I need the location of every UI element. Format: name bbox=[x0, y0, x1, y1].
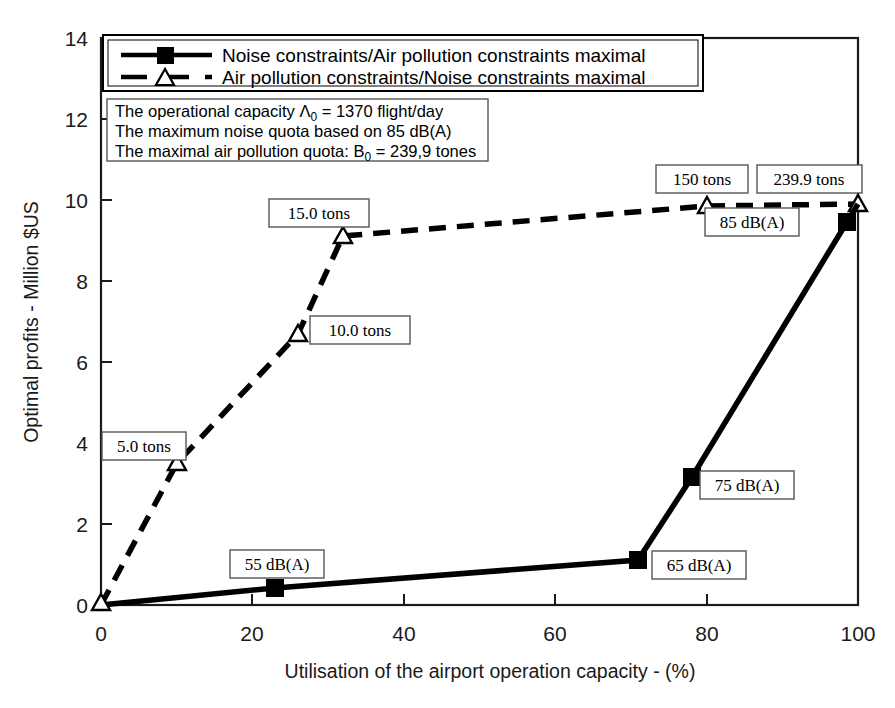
annotation-label: 5.0 tons bbox=[117, 437, 171, 456]
annotation-150-tons: 150 tons bbox=[656, 165, 748, 193]
y-tick-label: 10 bbox=[65, 189, 88, 212]
annotation-239-9-tons: 239.9 tons bbox=[757, 165, 862, 193]
y-axis-title: Optimal profits - Million $US bbox=[20, 201, 42, 443]
x-tick-label: 60 bbox=[543, 622, 566, 645]
x-tick-label: 40 bbox=[392, 622, 415, 645]
annotation-label: 10.0 tons bbox=[329, 321, 391, 340]
chart-figure: 0 2 4 6 8 10 12 14 0 20 40 60 80 100 Uti… bbox=[0, 0, 895, 708]
y-tick-label: 2 bbox=[76, 513, 88, 536]
annotation-5-tons: 5.0 tons bbox=[102, 432, 186, 460]
y-tick-label: 4 bbox=[76, 432, 88, 455]
y-tick-label: 8 bbox=[76, 270, 88, 293]
annotation-label: 85 dB(A) bbox=[720, 213, 785, 232]
info-box: The operational capacity Λ0 = 1370 fligh… bbox=[107, 99, 488, 164]
legend-marker-filled-square bbox=[157, 47, 174, 64]
annotation-85-db: 85 dB(A) bbox=[705, 208, 799, 236]
annotation-label: 150 tons bbox=[673, 170, 731, 189]
x-tick-label: 0 bbox=[95, 622, 107, 645]
x-tick-label: 80 bbox=[695, 622, 718, 645]
annotation-label: 75 dB(A) bbox=[715, 476, 780, 495]
info-line-noise-quota: The maximum noise quota based on 85 dB(A… bbox=[115, 122, 452, 140]
annotation-10-tons: 10.0 tons bbox=[310, 316, 410, 344]
annotation-label: 55 dB(A) bbox=[245, 555, 310, 574]
y-tick-label: 12 bbox=[65, 108, 88, 131]
annotation-15-tons: 15.0 tons bbox=[269, 199, 369, 227]
x-tick-label: 100 bbox=[840, 622, 875, 645]
annotation-65-db: 65 dB(A) bbox=[652, 551, 746, 579]
annotation-label: 65 dB(A) bbox=[667, 556, 732, 575]
annotation-75-db: 75 dB(A) bbox=[700, 471, 794, 499]
annotation-label: 239.9 tons bbox=[774, 170, 845, 189]
legend-label: Noise constraints/Air pollution constrai… bbox=[222, 45, 645, 66]
y-tick-label: 0 bbox=[76, 594, 88, 617]
x-tick-label: 20 bbox=[240, 622, 263, 645]
y-tick-label: 14 bbox=[65, 27, 89, 50]
annotation-55-db: 55 dB(A) bbox=[230, 550, 324, 578]
legend-label: Air pollution constraints/Noise constrai… bbox=[222, 67, 645, 88]
y-tick-label: 6 bbox=[76, 351, 88, 374]
chart-legend: Noise constraints/Air pollution constrai… bbox=[103, 35, 703, 91]
x-axis-title: Utilisation of the airport operation cap… bbox=[285, 660, 696, 682]
annotation-label: 15.0 tons bbox=[288, 204, 350, 223]
